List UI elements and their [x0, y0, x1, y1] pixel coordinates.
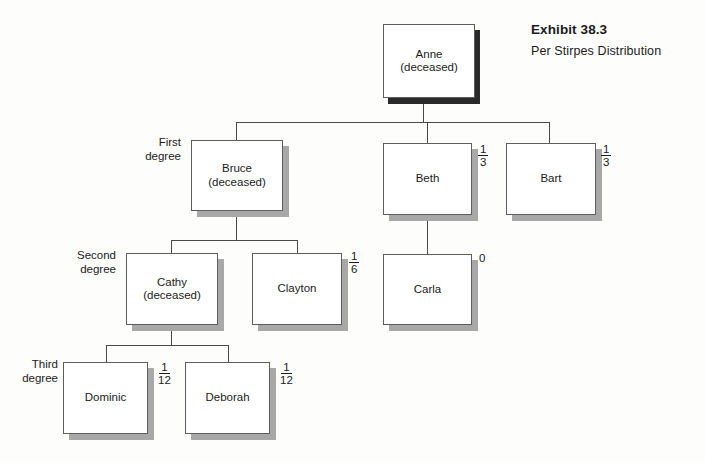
node-bart-label: Bart	[540, 172, 561, 186]
fraction-carla-whole: 0	[479, 252, 485, 264]
node-beth-label: Beth	[416, 172, 440, 186]
degree-label-second: Second degree	[52, 249, 116, 276]
connector-drop-bart	[549, 122, 550, 143]
share-dominic: 1 12	[156, 361, 173, 387]
node-carla-label: Carla	[414, 283, 441, 297]
node-beth[interactable]: Beth	[383, 143, 472, 215]
fraction-dominic-denominator: 12	[156, 374, 173, 386]
exhibit-title: Exhibit 38.3	[531, 22, 607, 37]
node-dominic-label: Dominic	[85, 391, 127, 405]
fraction-beth-numerator: 1	[478, 143, 488, 156]
fraction-clayton-numerator: 1	[349, 250, 359, 263]
connector-gen2-bus	[171, 240, 297, 241]
share-clayton: 1 6	[349, 250, 359, 276]
node-bruce[interactable]: Bruce (deceased)	[191, 140, 283, 211]
node-clayton-label: Clayton	[278, 282, 317, 296]
share-carla: 0	[479, 253, 485, 265]
fraction-dominic: 1 12	[156, 361, 173, 387]
node-anne-label: Anne (deceased)	[400, 48, 458, 75]
node-clayton[interactable]: Clayton	[252, 253, 342, 325]
node-bruce-label: Bruce (deceased)	[208, 162, 266, 189]
connector-drop-deborah	[228, 345, 229, 363]
connector-drop-clayton	[297, 240, 298, 254]
connector-anne-stem	[423, 103, 424, 123]
node-dominic[interactable]: Dominic	[63, 362, 148, 434]
exhibit-diagram-canvas: Exhibit 38.3 Per Stirpes Distribution An…	[0, 0, 705, 463]
degree-label-third: Third degree	[0, 358, 58, 385]
connector-drop-bruce	[236, 122, 237, 141]
degree-label-first: First degree	[117, 136, 181, 163]
connector-drop-beth	[427, 122, 428, 143]
fraction-bart-numerator: 1	[601, 143, 611, 156]
fraction-clayton: 1 6	[349, 250, 359, 276]
fraction-clayton-denominator: 6	[349, 263, 359, 275]
share-bart: 1 3	[601, 143, 611, 169]
connector-gen1-bus	[236, 122, 549, 123]
fraction-deborah-denominator: 12	[278, 374, 295, 386]
connector-gen3-bus	[106, 345, 228, 346]
fraction-beth: 1 3	[478, 143, 488, 169]
share-beth: 1 3	[478, 143, 488, 169]
fraction-bart-denominator: 3	[601, 156, 611, 168]
share-deborah: 1 12	[278, 361, 295, 387]
fraction-bart: 1 3	[601, 143, 611, 169]
fraction-deborah-numerator: 1	[281, 361, 291, 374]
exhibit-subtitle: Per Stirpes Distribution	[531, 44, 661, 58]
node-carla[interactable]: Carla	[383, 254, 472, 325]
node-cathy[interactable]: Cathy (deceased)	[126, 253, 218, 325]
node-anne[interactable]: Anne (deceased)	[383, 24, 475, 98]
connector-drop-dominic	[106, 345, 107, 363]
node-deborah[interactable]: Deborah	[185, 362, 270, 434]
connector-drop-cathy	[171, 240, 172, 254]
fraction-beth-denominator: 3	[478, 156, 488, 168]
fraction-dominic-numerator: 1	[159, 361, 169, 374]
node-bart[interactable]: Bart	[506, 143, 596, 215]
fraction-deborah: 1 12	[278, 361, 295, 387]
node-cathy-label: Cathy (deceased)	[143, 276, 201, 303]
node-deborah-label: Deborah	[205, 391, 249, 405]
